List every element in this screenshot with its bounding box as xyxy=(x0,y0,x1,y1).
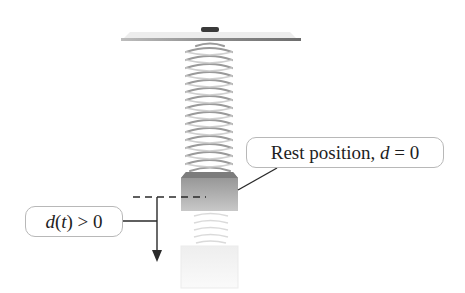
displaced-mass-ghost xyxy=(181,214,238,289)
rest-position-label: Rest position, d = 0 xyxy=(246,137,444,168)
disp-label-relation: > 0 xyxy=(73,212,103,231)
spring xyxy=(186,44,232,172)
mount-knob-icon xyxy=(201,27,219,32)
arrow-down-icon xyxy=(152,250,162,262)
displacement-arrow xyxy=(152,197,162,262)
rest-label-variable: d xyxy=(380,143,390,162)
rest-label-prefix: Rest position, xyxy=(271,143,380,162)
displacement-label: d(t) > 0 xyxy=(25,206,123,237)
rest-label-suffix: = 0 xyxy=(390,143,420,162)
ceiling-support xyxy=(121,27,301,41)
spring-mass-figure: Rest position, d = 0 d(t) > 0 xyxy=(0,0,465,293)
disp-label-function: d xyxy=(45,212,55,231)
mass-block xyxy=(181,172,238,211)
rest-leader-line xyxy=(238,168,277,190)
